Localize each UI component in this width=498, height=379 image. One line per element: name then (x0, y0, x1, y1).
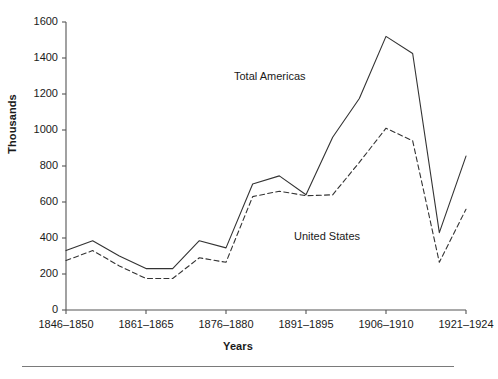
y-axis-title: Thousands (6, 64, 18, 184)
x-tick-label: 1906–1910 (341, 319, 431, 330)
x-tick-label: 1861–1865 (101, 319, 191, 330)
figure-bottom-rule (22, 366, 454, 367)
x-axis-title: Years (0, 340, 476, 352)
x-tick-label: 1846–1850 (21, 319, 111, 330)
series-annotation-united-states: United States (294, 231, 360, 242)
x-tick-label: 1921–1924 (421, 319, 498, 330)
x-tick-label: 1891–1895 (261, 319, 351, 330)
x-tick-label: 1876–1880 (181, 319, 271, 330)
series-annotation-total-americas: Total Americas (234, 71, 306, 82)
